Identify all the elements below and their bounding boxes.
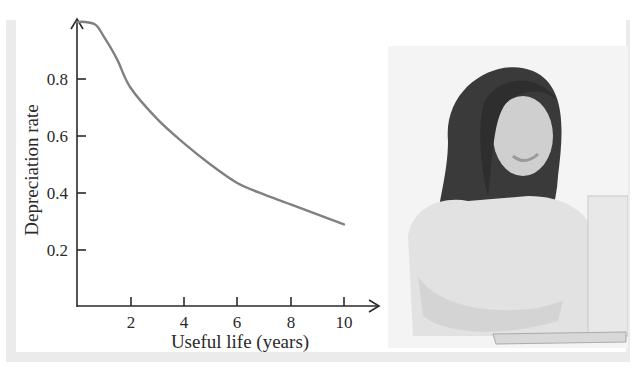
x-tick-label: 6 xyxy=(233,313,242,332)
x-tick-label: 8 xyxy=(287,313,296,332)
photo-woman-laptop xyxy=(388,46,628,348)
y-axis-title: Depreciation rate xyxy=(21,104,42,235)
depreciation-curve xyxy=(77,22,344,225)
y-tick-label: 0.4 xyxy=(47,184,69,203)
x-tick-label: 2 xyxy=(127,313,136,332)
y-tick-label: 0.6 xyxy=(47,127,68,146)
y-tick-label: 0.2 xyxy=(47,241,68,260)
x-tick-label: 4 xyxy=(180,313,189,332)
photo-illustration xyxy=(388,46,628,348)
x-axis-title: Useful life (years) xyxy=(171,331,309,353)
y-tick-label: 0.8 xyxy=(47,70,68,89)
axes xyxy=(71,19,379,312)
x-tick-label: 10 xyxy=(336,313,353,332)
